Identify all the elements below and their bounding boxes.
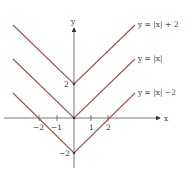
tick-x-2: 2 xyxy=(106,123,111,132)
y-axis-label: y xyxy=(70,17,76,26)
tick-y-2: 2 xyxy=(64,80,69,89)
label-abs: y = |x| xyxy=(137,54,163,63)
abs-value-graph: y x −2 −1 1 2 2 −2 y = |x| + 2 y = |x| y… xyxy=(0,0,189,177)
tick-x-neg1: −1 xyxy=(51,123,62,132)
label-abs-minus-2: y = |x| −2 xyxy=(137,88,176,97)
label-abs-plus-2: y = |x| + 2 xyxy=(137,20,179,29)
x-axis-label: x xyxy=(164,114,169,123)
tick-x-neg2: −2 xyxy=(33,123,44,132)
tick-x-1: 1 xyxy=(89,123,94,132)
tick-y-neg2: −2 xyxy=(59,149,70,158)
